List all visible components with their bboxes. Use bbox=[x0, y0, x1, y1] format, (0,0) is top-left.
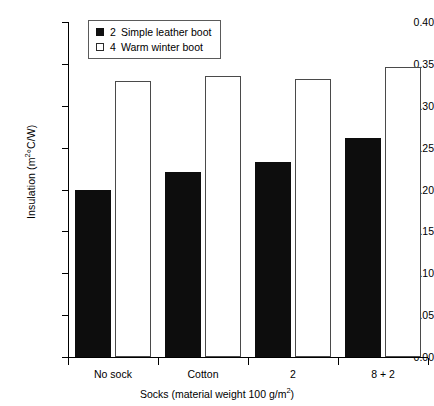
x-axis-tick bbox=[158, 358, 159, 365]
bar-filled-0 bbox=[75, 190, 111, 357]
x-axis-tick bbox=[68, 358, 69, 365]
plot-area bbox=[68, 22, 428, 357]
bar-open-2 bbox=[295, 79, 331, 357]
legend-swatch-open-icon bbox=[96, 43, 104, 51]
y-axis-title-main: Insulation (m bbox=[25, 157, 37, 218]
legend-item-label: Simple leather boot bbox=[121, 26, 211, 38]
legend-item: 2 Simple leather boot bbox=[96, 24, 211, 39]
x-axis-title: Socks (material weight 100 g/m2) bbox=[0, 386, 434, 400]
x-axis-tick bbox=[428, 358, 429, 365]
legend-item-key: 2 bbox=[110, 26, 121, 38]
x-axis-tick-label: Cotton bbox=[188, 368, 219, 380]
bar-open-0 bbox=[115, 81, 151, 357]
legend-swatch-filled-icon bbox=[96, 28, 104, 36]
x-axis-title-tail: ) bbox=[291, 388, 295, 400]
x-axis-tick bbox=[248, 358, 249, 365]
legend-item-key: 4 bbox=[110, 41, 121, 53]
bar-chart: Insulation (m2°C/W) 0.000.050.100.150.20… bbox=[0, 0, 434, 406]
bar-filled-3 bbox=[345, 138, 381, 357]
x-axis-tick bbox=[338, 358, 339, 365]
x-axis-tick-label: 2 bbox=[290, 368, 296, 380]
legend-item-label: Warm winter boot bbox=[121, 41, 203, 53]
bar-filled-1 bbox=[165, 172, 201, 357]
x-axis-tick-label: No sock bbox=[94, 368, 132, 380]
x-axis-title-main: Socks (material weight 100 g/m bbox=[140, 388, 286, 400]
bar-filled-2 bbox=[255, 162, 291, 357]
legend: 2 Simple leather boot 4 Warm winter boot bbox=[88, 20, 221, 59]
legend-item: 4 Warm winter boot bbox=[96, 39, 211, 54]
bar-open-3 bbox=[385, 67, 421, 357]
y-axis-title-superscript: 2 bbox=[23, 153, 32, 157]
y-axis-title: Insulation (m2°C/W) bbox=[23, 92, 37, 252]
bar-open-1 bbox=[205, 76, 241, 357]
y-axis-title-tail: °C/W) bbox=[25, 125, 37, 154]
x-axis-tick-label: 8 + 2 bbox=[371, 368, 395, 380]
